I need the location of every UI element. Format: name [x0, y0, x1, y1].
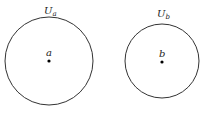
point-label-b: b [159, 48, 165, 59]
set-ub: Ub b [125, 8, 199, 98]
diagram-canvas: Ua a Ub b [0, 0, 203, 114]
label-ub: Ub [157, 8, 170, 21]
label-ua: Ua [44, 5, 57, 18]
set-ua: Ua a [5, 5, 93, 105]
point-b [160, 60, 163, 63]
point-a [47, 59, 50, 62]
point-label-a: a [46, 47, 52, 58]
